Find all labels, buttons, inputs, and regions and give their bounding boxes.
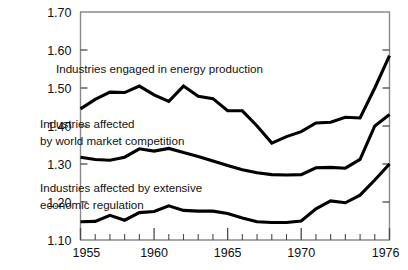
x-tick-label-1955: 1955 (73, 246, 101, 260)
chart-container: 1.701.601.501.401.301.201.10 19551960196… (0, 0, 408, 270)
series-annotation-2: by world market competition (40, 134, 184, 147)
x-tick-label-1965: 1965 (214, 246, 242, 260)
y-tick-label-1.50: 1.50 (47, 82, 71, 96)
y-tick-label-1.30: 1.30 (47, 158, 71, 172)
y-tick-label-1.60: 1.60 (47, 44, 71, 58)
series-annotation-1: Industries affected (40, 117, 135, 130)
y-tick-label-1.10: 1.10 (47, 234, 71, 248)
series-annotation-3: Industries affected by extensive (40, 181, 202, 194)
y-axis-ticks-right (383, 50, 390, 202)
x-tick-label-1970: 1970 (287, 246, 315, 260)
line-chart: 1.701.601.501.401.301.201.10 19551960196… (0, 0, 408, 270)
x-tick-label-1976: 1976 (372, 246, 400, 260)
series-annotation-0: Industries engaged in energy production (56, 62, 263, 75)
series-annotation-4: economic regulation (40, 198, 144, 211)
y-tick-label-1.70: 1.70 (47, 6, 71, 20)
x-axis-tick-labels: 19551960196519701976 (73, 246, 400, 260)
x-axis-ticks (81, 228, 390, 240)
x-tick-label-1960: 1960 (140, 246, 168, 260)
series-annotations: Industries engaged in energy productionI… (40, 62, 263, 211)
